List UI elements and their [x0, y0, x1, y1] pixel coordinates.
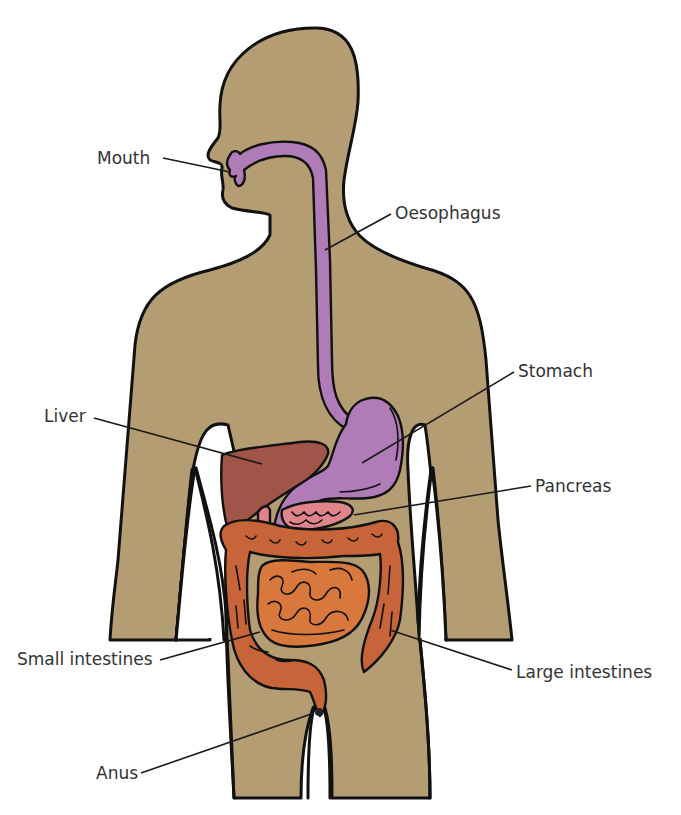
label-text-small-intestines: Small intestines: [17, 649, 153, 669]
label-text-liver: Liver: [44, 406, 86, 426]
digestive-system-diagram: Mouth Oesophagus Stomach Liver Pancreas …: [0, 0, 681, 815]
label-text-mouth: Mouth: [97, 148, 150, 168]
leg-gap: [308, 707, 330, 798]
label-text-oesophagus: Oesophagus: [395, 203, 501, 223]
anus-marker: [315, 708, 323, 716]
label-text-pancreas: Pancreas: [535, 476, 612, 496]
label-text-anus: Anus: [96, 763, 138, 783]
label-text-large-intestines: Large intestines: [516, 662, 652, 682]
label-text-stomach: Stomach: [518, 361, 593, 381]
